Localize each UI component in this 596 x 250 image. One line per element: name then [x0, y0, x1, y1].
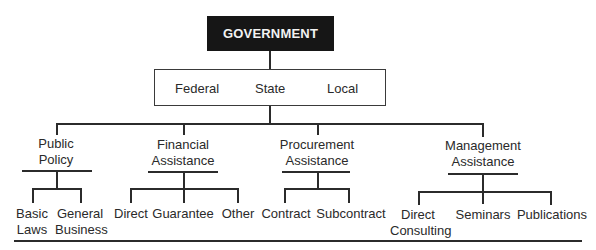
leaf-line1: Guarantee	[150, 206, 216, 222]
leaf-direct: Direct	[110, 206, 152, 222]
leaf-line1: Direct	[390, 207, 446, 223]
leaf-subcontract: Subcontract	[316, 206, 386, 222]
leaf-line1: Publications	[516, 207, 588, 223]
category-label-line2: Assistance	[143, 153, 223, 169]
category-label-line2: Assistance	[272, 153, 362, 169]
drop-basic-laws	[32, 188, 34, 203]
category-label-line1: Management	[438, 138, 528, 154]
bottom-rule	[14, 240, 582, 242]
category-label-line1: Financial	[143, 137, 223, 153]
leaf-seminars: Seminars	[454, 207, 512, 223]
drop-other	[237, 188, 239, 203]
category-label-line1: Public	[16, 136, 96, 152]
leaf-publications: Publications	[516, 207, 588, 223]
leaf-line2: Consulting	[390, 223, 446, 239]
category-management-assistance: Management Assistance	[438, 138, 528, 170]
stem-public-policy	[56, 170, 58, 188]
leaf-line1: Contract	[258, 206, 314, 222]
connector-levels-to-categories	[269, 106, 271, 124]
sub-bus-procurement	[284, 188, 349, 190]
category-label-line2: Assistance	[438, 154, 528, 170]
leaf-line1: Subcontract	[316, 206, 386, 222]
stem-procurement	[317, 171, 319, 188]
connector-root-to-levels	[269, 51, 271, 69]
underline-procurement	[282, 171, 350, 173]
level-local: Local	[327, 81, 358, 96]
drop-subcontract	[348, 188, 350, 203]
leaf-line1: Direct	[110, 206, 152, 222]
leaf-guarantee: Guarantee	[150, 206, 216, 222]
leaf-line1: General	[55, 206, 105, 222]
leaf-line2: Business	[55, 222, 105, 238]
drop-publications	[550, 191, 552, 205]
stem-management	[482, 173, 484, 204]
sub-bus-public-policy	[32, 188, 81, 190]
category-procurement-assistance: Procurement Assistance	[272, 137, 362, 169]
drop-general-business	[80, 188, 82, 203]
category-bus-line	[56, 123, 483, 125]
leaf-line2: Laws	[10, 222, 54, 238]
sub-bus-management	[418, 191, 551, 193]
leaf-other: Other	[218, 206, 258, 222]
level-federal: Federal	[175, 81, 219, 96]
drop-contract	[284, 188, 286, 203]
category-financial-assistance: Financial Assistance	[143, 137, 223, 169]
category-label-line1: Procurement	[272, 137, 362, 153]
root-label: GOVERNMENT	[223, 26, 318, 41]
leaf-direct-consulting: Direct Consulting	[390, 207, 446, 239]
government-levels-box: Federal State Local	[154, 69, 386, 106]
leaf-line1: Basic	[10, 206, 54, 222]
leaf-line1: Seminars	[454, 207, 512, 223]
drop-public-policy	[56, 123, 58, 135]
category-label-line2: Policy	[16, 152, 96, 168]
sub-bus-financial	[130, 188, 238, 190]
leaf-general-business: General Business	[55, 206, 105, 238]
drop-management	[482, 123, 484, 137]
drop-financial	[183, 123, 185, 135]
root-node-government: GOVERNMENT	[207, 16, 334, 51]
category-public-policy: Public Policy	[16, 136, 96, 168]
drop-direct	[130, 188, 132, 203]
level-state: State	[255, 81, 285, 96]
drop-direct-consulting	[418, 191, 420, 205]
leaf-contract: Contract	[258, 206, 314, 222]
leaf-line1: Other	[218, 206, 258, 222]
leaf-basic-laws: Basic Laws	[10, 206, 54, 238]
drop-procurement	[317, 123, 319, 135]
stem-financial	[183, 171, 185, 203]
